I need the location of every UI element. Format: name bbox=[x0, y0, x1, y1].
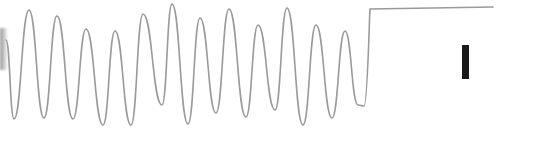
marker-bar bbox=[462, 45, 469, 79]
waveform-line bbox=[6, 4, 493, 125]
chart-canvas bbox=[0, 0, 549, 141]
